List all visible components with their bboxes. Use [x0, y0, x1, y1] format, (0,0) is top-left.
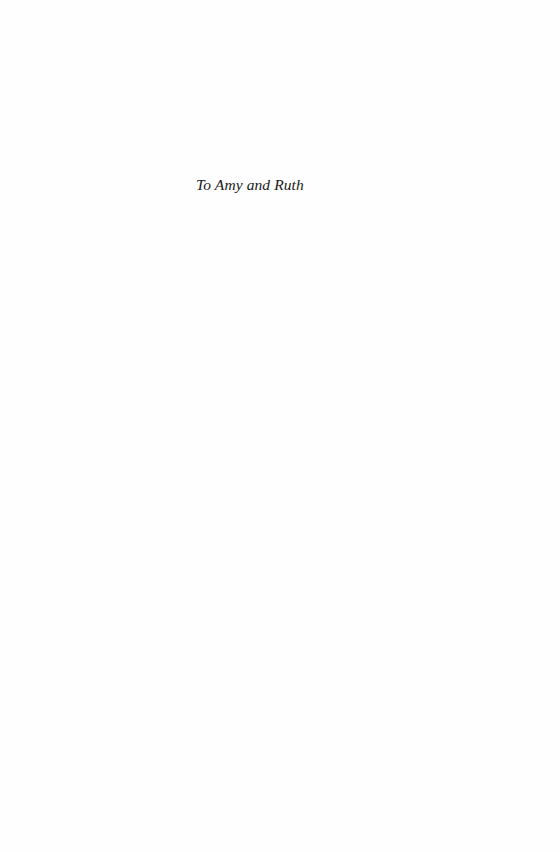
dedication-page: To Amy and Ruth	[0, 0, 560, 852]
dedication-text: To Amy and Ruth	[196, 175, 304, 195]
